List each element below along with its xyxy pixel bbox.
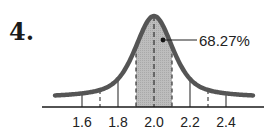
normal-curve-chart: 1.61.82.02.22.4 68.27% <box>0 0 272 137</box>
x-tick-label: 1.8 <box>108 114 128 130</box>
x-tick-labels: 1.61.82.02.22.4 <box>72 114 236 130</box>
x-tick-label: 2.2 <box>180 114 200 130</box>
annotation-label: 68.27% <box>199 32 250 49</box>
x-tick-label: 2.0 <box>144 114 164 130</box>
x-tick-label: 1.6 <box>72 114 92 130</box>
x-tick-label: 2.4 <box>216 114 236 130</box>
